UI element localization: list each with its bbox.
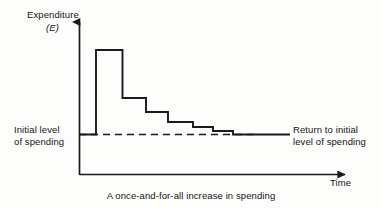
y-axis-label: Expenditure (E) [27,9,79,33]
figure-caption: A once-and-for-all increase in spending [0,190,382,202]
y-axis-symbol: (E) [27,22,78,34]
x-axis-label: Time [330,177,351,189]
return-level-annotation: Return to initial level of spending [293,124,366,147]
initial-level-line-1: Initial level [14,124,60,135]
figure-container: Expenditure (E) Time Initial level of sp… [0,0,382,208]
expenditure-step-path [80,50,291,135]
y-axis-label-text: Expenditure [27,9,79,20]
return-level-line-1: Return to initial [293,124,358,135]
return-level-line-2: level of spending [293,136,366,147]
initial-level-line-2: of spending [14,136,64,147]
initial-level-annotation: Initial level of spending [14,124,64,147]
